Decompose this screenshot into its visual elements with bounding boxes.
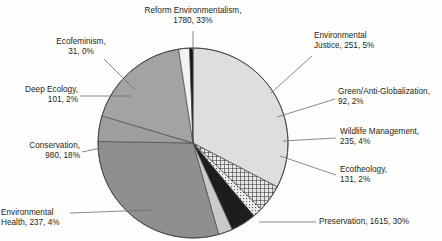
leader-line-ecotheology: [280, 156, 336, 175]
slice-label-reform-environmentalism: Reform Environmentalism, 1780, 33%: [115, 6, 271, 27]
slice-label-line1: Wildlife Management,: [340, 127, 442, 137]
pie-chart-figure: Reform Environmentalism, 1780, 33% Ecofe…: [0, 0, 442, 241]
slice-label-line1: Reform Environmentalism,: [115, 6, 271, 16]
slice-label-line2: Health, 237, 4%: [1, 218, 81, 228]
slice-label-line1: Preservation, 1615, 30%: [319, 217, 441, 227]
slice-label-line1: Deep Ecology,: [0, 85, 78, 95]
leader-line-wildlife-management: [283, 138, 336, 141]
pie-slices: [98, 48, 288, 238]
slice-label-line1: Environmental: [1, 208, 81, 218]
slice-label-conservation: Conservation, 980, 18%: [0, 141, 80, 162]
slice-label-line2: 235, 4%: [340, 137, 442, 147]
slice-label-line1: Green/Anti-Globalization,: [338, 87, 442, 97]
slice-label-line2: 101, 2%: [0, 95, 78, 105]
slice-label-line2: 131, 2%: [340, 175, 440, 185]
leader-line-environmental-justice: [271, 56, 312, 93]
slice-label-line2: Justice, 251, 5%: [314, 41, 438, 51]
slice-label-line2: 1780, 33%: [115, 16, 271, 26]
slice-label-line2: 92, 2%: [338, 97, 442, 107]
slice-label-ecofeminism: Ecofeminism, 31, 0%: [32, 37, 130, 58]
leader-line-green-anti-globalization: [277, 99, 335, 117]
slice-label-green-anti-globalization: Green/Anti-Globalization, 92, 2%: [338, 87, 442, 108]
slice-label-line1: Environmental: [314, 31, 438, 41]
slice-label-line1: Ecofeminism,: [32, 37, 130, 47]
slice-label-line1: Ecotheology,: [340, 165, 440, 175]
slice-label-environmental-health: Environmental Health, 237, 4%: [1, 208, 81, 229]
slice-label-environmental-justice: Environmental Justice, 251, 5%: [314, 31, 438, 52]
slice-label-ecotheology: Ecotheology, 131, 2%: [340, 165, 440, 186]
slice-label-line1: Conservation,: [0, 141, 80, 151]
slice-label-line2: 31, 0%: [32, 47, 130, 57]
slice-label-deep-ecology: Deep Ecology, 101, 2%: [0, 85, 78, 106]
slice-label-preservation: Preservation, 1615, 30%: [319, 217, 441, 227]
slice-label-line2: 980, 18%: [0, 151, 80, 161]
slice-label-wildlife-management: Wildlife Management, 235, 4%: [340, 127, 442, 148]
